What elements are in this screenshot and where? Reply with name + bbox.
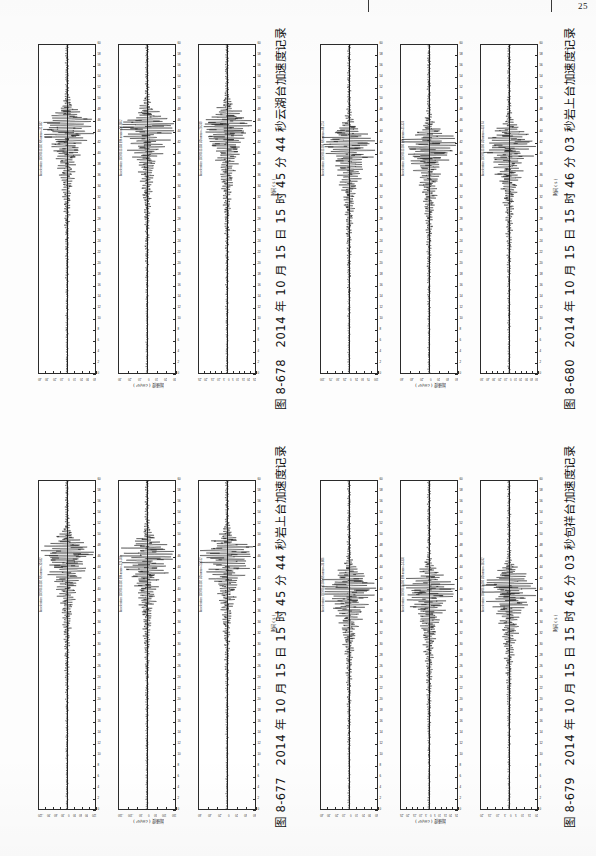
time-tick-label: 60: [178, 42, 181, 45]
amplitude-tick-label: 20: [80, 376, 83, 379]
time-tick-label: 46: [380, 555, 383, 558]
amplitude-tick: [448, 371, 449, 374]
amplitude-tick: [516, 807, 517, 810]
time-tick-label: 44: [460, 130, 463, 133]
time-tick-label: 42: [460, 577, 463, 580]
time-tick-label: 26: [540, 665, 543, 668]
time-tick-label: 30: [178, 643, 181, 646]
time-tick-label: 48: [460, 108, 463, 111]
figure-caption-gap: [563, 348, 577, 360]
time-tick-label: 54: [540, 75, 543, 78]
amplitude-tick-labels: -100-75-50-250255075100: [320, 376, 378, 379]
time-tick-label: 0: [178, 372, 180, 375]
amplitude-tick: [244, 371, 245, 374]
amplitude-tick-label: 30: [86, 376, 89, 379]
amplitude-axis-title: 加速度 ( cm/s² ): [133, 819, 164, 825]
amplitude-tick-label: 0: [350, 812, 351, 815]
time-tick-label: 38: [98, 163, 101, 166]
figure-caption: 图 8-679 2014 年 10 月 15 日 15 时 46 分 03 秒包…: [561, 445, 577, 828]
time-tick-label: 28: [380, 218, 383, 221]
trace-channel-label: Acceleration 10270615160 EW amax=-55.324: [403, 121, 406, 176]
time-tick-label: 32: [540, 632, 543, 635]
time-tick-label: 28: [460, 654, 463, 657]
time-tick-label: 56: [98, 64, 101, 67]
amplitude-tick-label: -30: [327, 812, 331, 815]
crop-mark-right: [551, 0, 552, 12]
time-tick-label: 60: [258, 478, 261, 481]
time-tick-label: 46: [540, 119, 543, 122]
amplitude-tick-label: 90: [85, 812, 88, 815]
time-tick-label: 40: [380, 588, 383, 591]
time-tick-label: 46: [460, 555, 463, 558]
waveform-panel: 0246810121416182022242628303234363840424…: [38, 480, 96, 810]
amplitude-tick: [509, 371, 510, 374]
trace-channel-label: Acceleration 10270615102 EW amax=-124.36…: [121, 555, 124, 612]
time-tick-label: 24: [460, 240, 463, 243]
time-tick-label: 48: [540, 544, 543, 547]
amplitude-tick-label: 20: [362, 812, 365, 815]
time-tick-label: 42: [258, 141, 261, 144]
amplitude-tick: [435, 807, 436, 810]
amplitude-tick-label: -90: [47, 812, 51, 815]
time-tick-label: 54: [460, 75, 463, 78]
time-tick-label: 50: [460, 97, 463, 100]
waveform-panel: 0246810121416182022242628303234363840424…: [118, 480, 176, 810]
amplitude-tick-label: 0: [228, 812, 229, 815]
amplitude-tick: [176, 371, 177, 374]
waveform-panel: 0246810121416182022242628303234363840424…: [320, 480, 378, 810]
amplitude-tick-label: 15: [444, 812, 447, 815]
time-tick-label: 24: [540, 240, 543, 243]
amplitude-tick: [502, 807, 503, 810]
time-tick-label: 56: [178, 64, 181, 67]
amplitude-tick-label: -30: [118, 376, 122, 379]
figure-caption-gap: [274, 766, 288, 778]
amplitude-tick-labels: -40-30-20-10010203040: [320, 812, 378, 815]
time-tick-label: 48: [380, 108, 383, 111]
time-tick-label: 40: [258, 588, 261, 591]
amplitude-tick: [118, 807, 119, 810]
time-tick-label: 32: [258, 632, 261, 635]
time-tick-label: 4: [98, 786, 100, 789]
time-tick-label: 48: [178, 108, 181, 111]
amplitude-tick-label: 20: [235, 812, 238, 815]
time-tick-label: 40: [98, 152, 101, 155]
amplitude-tick: [521, 371, 522, 374]
amplitude-tick: [342, 371, 343, 374]
amplitude-tick: [412, 807, 413, 810]
time-tick-label: 60: [380, 42, 383, 45]
amplitude-tick-label: 10: [514, 376, 517, 379]
time-tick-label: 54: [258, 511, 261, 514]
amplitude-tick: [515, 371, 516, 374]
time-tick-label: 38: [380, 163, 383, 166]
amplitude-tick-labels: -25-20-15-10-50510152025: [400, 812, 458, 815]
waveform-trace: [118, 44, 176, 374]
time-tick-label: 36: [540, 610, 543, 613]
time-tick-label: 24: [98, 676, 101, 679]
time-tick-label: 32: [380, 632, 383, 635]
amplitude-tick: [137, 807, 138, 810]
time-tick-label: 30: [98, 207, 101, 210]
amplitude-tick: [208, 807, 209, 810]
time-tick-label: 36: [380, 610, 383, 613]
amplitude-tick: [417, 807, 418, 810]
amplitude-tick-label: 100: [162, 812, 166, 815]
time-tick-label: 26: [258, 229, 261, 232]
time-tick-label: 52: [178, 86, 181, 89]
time-tick-label: 48: [460, 544, 463, 547]
time-tick-label: 40: [258, 152, 261, 155]
amplitude-tick-label: 60: [253, 812, 256, 815]
amplitude-tick: [378, 371, 379, 374]
amplitude-tick-label: 10: [521, 812, 524, 815]
amplitude-tick: [335, 807, 336, 810]
time-tick-label: 36: [380, 174, 383, 177]
waveform-trace: [400, 44, 458, 374]
time-tick-label: 56: [380, 64, 383, 67]
time-tick-label: 0: [98, 372, 100, 375]
time-tick-label: 26: [380, 229, 383, 232]
time-tick-label: 44: [380, 566, 383, 569]
time-tick-label: 44: [540, 130, 543, 133]
amplitude-tick: [509, 807, 510, 810]
time-tick-label: 8: [460, 764, 462, 767]
time-tick-label: 0: [258, 808, 260, 811]
time-tick-label: 16: [380, 284, 383, 287]
